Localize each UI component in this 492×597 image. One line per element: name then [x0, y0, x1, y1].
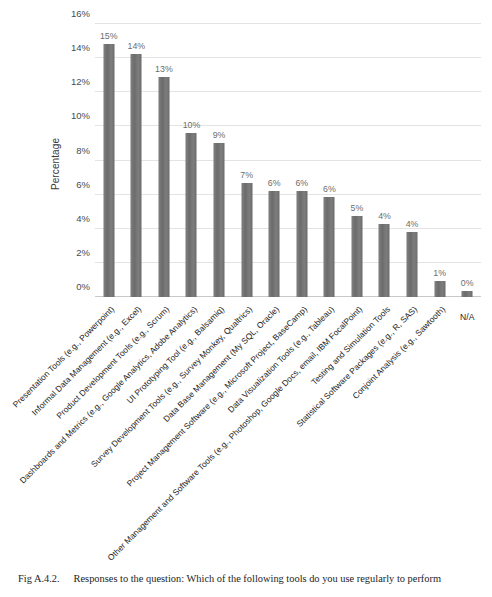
bar-slot: 15% — [95, 24, 123, 297]
bar-value-label: 1% — [433, 268, 446, 278]
bar-value-label: 14% — [128, 41, 146, 51]
bar-value-label: 6% — [323, 184, 336, 194]
bar[interactable] — [131, 54, 142, 297]
figure-container: Percentage 0%2%4%6%8%10%12%14%16% 15%14%… — [0, 0, 492, 597]
x-axis-category-label: Project Management Software (e.g., Micro… — [124, 304, 308, 488]
bar[interactable] — [158, 77, 169, 297]
caption-text: Responses to the question: Which of the … — [74, 573, 441, 584]
bar-slot: 10% — [178, 24, 206, 297]
bar[interactable] — [269, 191, 280, 297]
bar-slot: 6% — [288, 24, 316, 297]
bar-slot: 4% — [398, 24, 426, 297]
y-axis-tick-label: 8% — [76, 144, 90, 155]
bar-slot: 0% — [453, 24, 481, 297]
x-axis-category-labels: Presentation Tools (e.g., Powerpoint)Inf… — [95, 300, 481, 510]
bar-value-label: 9% — [213, 130, 226, 140]
bar[interactable] — [407, 232, 418, 297]
figure-caption: Fig A.4.2.Responses to the question: Whi… — [18, 572, 480, 585]
bar-slot: 9% — [205, 24, 233, 297]
y-axis-tick-label: 14% — [71, 42, 90, 53]
y-axis-title: Percentage — [50, 104, 61, 224]
caption-number: Fig A.4.2. — [18, 573, 60, 584]
x-axis-category-label: Presentation Tools (e.g., Powerpoint) — [10, 304, 115, 409]
bar[interactable] — [462, 291, 473, 297]
bar[interactable] — [324, 197, 335, 297]
y-axis-tick-label: 2% — [76, 246, 90, 257]
bar-value-label: 13% — [155, 64, 173, 74]
bar-value-label: 7% — [240, 170, 253, 180]
bar[interactable] — [103, 44, 114, 297]
bar[interactable] — [214, 143, 225, 297]
bar-slot: 1% — [426, 24, 454, 297]
bar[interactable] — [351, 216, 362, 297]
bar[interactable] — [296, 191, 307, 297]
y-axis-tick-label: 6% — [76, 178, 90, 189]
y-axis-tick-label: 0% — [76, 281, 90, 292]
bar-slot: 5% — [343, 24, 371, 297]
bar-slot: 7% — [233, 24, 261, 297]
bar-value-label: 15% — [100, 31, 118, 41]
bar[interactable] — [379, 224, 390, 297]
bar-slot: 14% — [123, 24, 151, 297]
bar-value-label: 4% — [406, 219, 419, 229]
bar-slot: 13% — [150, 24, 178, 297]
bar[interactable] — [186, 133, 197, 297]
bar[interactable] — [434, 281, 445, 297]
y-axis-tick-label: 10% — [71, 110, 90, 121]
bar-slot: 6% — [260, 24, 288, 297]
bar-slot: 6% — [316, 24, 344, 297]
bar-value-label: 6% — [268, 178, 281, 188]
bar-value-label: 10% — [183, 120, 201, 130]
bar-value-label: 6% — [295, 178, 308, 188]
y-axis-tick-label: 4% — [76, 212, 90, 223]
bar-value-label: 4% — [378, 211, 391, 221]
bar-value-label: 0% — [461, 278, 474, 288]
bar[interactable] — [241, 183, 252, 297]
bar-slot: 4% — [371, 24, 399, 297]
bar-value-label: 5% — [351, 203, 364, 213]
plot-area: 0%2%4%6%8%10%12%14%16% 15%14%13%10%9%7%6… — [95, 24, 481, 297]
y-axis-tick-label: 16% — [71, 8, 90, 19]
x-axis-category-label: N/A — [460, 312, 474, 322]
y-axis-tick-label: 12% — [71, 76, 90, 87]
